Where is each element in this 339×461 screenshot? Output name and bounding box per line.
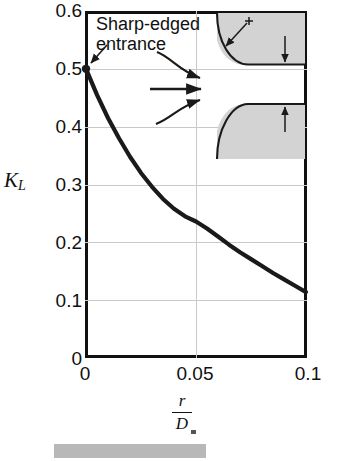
x-tick-0.05: 0.05	[160, 364, 230, 383]
y-axis-title-sub: L	[18, 178, 26, 193]
inset-radius-label: r	[233, 16, 240, 36]
inset-diameter-label: D	[275, 134, 289, 156]
x-axis-title-numerator: r	[172, 392, 192, 411]
x-axis-title-denominator: D	[172, 414, 192, 433]
y-tick-0.6: 0.6	[56, 1, 82, 20]
caption-speck-artifact	[191, 430, 196, 434]
x-tick-0: 0	[71, 364, 99, 383]
y-axis-title: KL	[4, 168, 26, 194]
x-axis-title: r D	[172, 392, 192, 433]
y-tick-0.4: 0.4	[56, 117, 82, 136]
y-tick-0.2: 0.2	[56, 233, 82, 252]
fraction-bar	[172, 412, 192, 413]
caption-bar-artifact	[54, 444, 206, 458]
annotation-line-2: entrance	[96, 34, 166, 54]
x-tick-0.1: 0.1	[280, 364, 336, 383]
y-axis-title-main: K	[4, 168, 18, 192]
y-tick-0.1: 0.1	[56, 291, 82, 310]
y-tick-0.3: 0.3	[56, 175, 82, 194]
chart-figure: 0.6 0.5 0.4 0.3 0.2 0.1 0 0 0.05 0.1 KL …	[0, 0, 339, 461]
gridline-x-0.05	[196, 11, 197, 358]
y-tick-0.5: 0.5	[56, 59, 82, 78]
annotation-line-1: Sharp-edged	[96, 14, 200, 34]
